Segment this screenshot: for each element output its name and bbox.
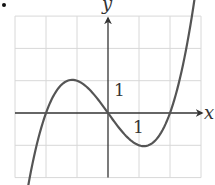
- y-axis-label: y: [101, 0, 113, 14]
- x-axis-label: x: [204, 102, 214, 123]
- function-curve: [24, 0, 199, 185]
- cubic-function-graph: 1 1 y x: [0, 0, 215, 185]
- y-tick-label: 1: [114, 80, 125, 100]
- x-tick-label: 1: [133, 117, 144, 137]
